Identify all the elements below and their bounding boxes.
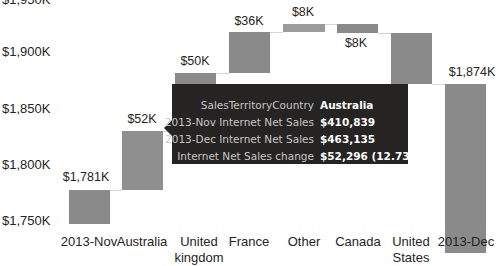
x-label-2013-dec: 2013-Dec [438,234,494,250]
bar-australia[interactable] [122,131,163,190]
tooltip-key: Internet Net Sales change [177,150,314,162]
bar-canada[interactable] [337,24,378,33]
y-tick-1850: $1,850K [2,101,50,116]
data-label-2013-dec: $1,874K [449,65,496,79]
connector-line [325,24,337,25]
bar-2013-dec[interactable] [445,84,486,253]
connector-line [216,73,229,74]
tooltip: SalesTerritoryCountry Australia 2013-Nov… [172,84,408,164]
bar-united-states[interactable] [391,33,432,84]
connector-line [432,84,445,85]
tooltip-row-country: SalesTerritoryCountry Australia [172,99,408,115]
tooltip-row-nov-sales: 2013-Nov Internet Net Sales $410,839 [172,116,408,132]
connector-line [110,190,122,191]
connector-line [378,33,391,34]
data-label-canada: $8K [345,36,367,50]
tooltip-value: $463,135 [320,133,375,145]
data-label-france: $36K [234,14,263,28]
tooltip-key: SalesTerritoryCountry [201,99,314,111]
tooltip-value: $410,839 [320,116,375,128]
data-label-other: $8K [292,5,314,19]
bar-france[interactable] [229,32,270,73]
x-label-united-states: UnitedStates [392,234,430,266]
bar-other[interactable] [283,24,325,32]
x-label-other: Other [288,234,321,250]
data-label-2013-nov: $1,781K [63,170,110,184]
tooltip-value: $52,296 (12.73%) [320,150,425,162]
connector-line [270,32,283,33]
tooltip-value: Australia [320,99,373,111]
y-tick-1800: $1,800K [2,157,50,172]
x-label-united-kingdom: Unitedkingdom [174,234,223,266]
y-tick-1900: $1,900K [2,44,50,59]
x-label-australia: Australia [117,234,168,250]
y-tick-1750: $1,750K [2,213,50,228]
x-label-2013-nov: 2013-Nov [61,234,117,250]
tooltip-row-change: Internet Net Sales change $52,296 (12.73… [172,150,408,166]
tooltip-key: 2013-Nov Internet Net Sales [165,116,314,128]
bar-2013-nov[interactable] [69,190,110,224]
y-tick-1950: $1,950K [2,0,50,7]
tooltip-key: 2013-Dec Internet Net Sales [165,133,314,145]
x-label-canada: Canada [335,234,381,250]
data-label-australia: $52K [127,112,156,126]
tooltip-row-dec-sales: 2013-Dec Internet Net Sales $463,135 [172,133,408,149]
data-label-united-kingdom: $50K [180,54,209,68]
x-label-france: France [229,234,269,250]
